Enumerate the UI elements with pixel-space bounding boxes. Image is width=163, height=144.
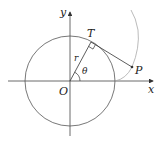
point-p-label: P [134, 64, 143, 77]
angle-label: θ [82, 66, 88, 76]
tangent-point-label: T [87, 27, 96, 40]
radius-label: r [74, 53, 79, 63]
y-axis-label: y [59, 6, 67, 19]
origin-label: O [59, 85, 68, 98]
point-p-dot [131, 66, 134, 69]
x-axis-label: x [148, 83, 155, 96]
angle-arc [75, 72, 80, 81]
involute-diagram: y x O T P r θ [0, 0, 163, 144]
